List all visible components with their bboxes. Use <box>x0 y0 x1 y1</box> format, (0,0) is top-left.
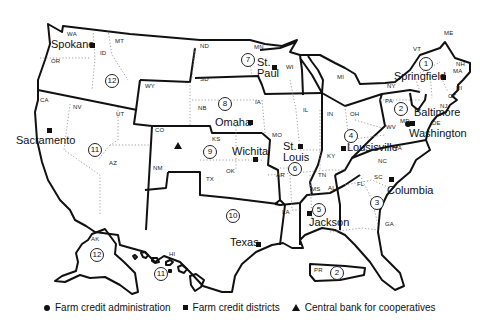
state-or: OR <box>51 58 60 64</box>
district-3-label: 3 <box>370 196 384 210</box>
legend-item-fca: Farm credit administration <box>44 302 171 313</box>
state-nm: NM <box>153 165 163 171</box>
district-12-label: 12 <box>105 74 119 88</box>
triangle-icon <box>292 304 300 311</box>
state-oh: OH <box>350 111 359 117</box>
state-pr: PR <box>314 267 323 273</box>
legend-label: Central bank for cooperatives <box>305 302 436 313</box>
district-10-label: 10 <box>226 209 240 223</box>
state-ms: MS <box>311 186 320 192</box>
legend-label: Farm credit districts <box>193 302 280 313</box>
state-wv: WV <box>386 124 396 130</box>
state-ia: IA <box>255 99 261 105</box>
district-11-hawaii-label: 11 <box>154 267 168 281</box>
district-2-puerto-rico-label: 2 <box>330 266 344 280</box>
district-hq-marker <box>441 75 446 80</box>
state-hi: HI <box>169 251 175 257</box>
state-mt: MT <box>115 38 124 44</box>
district-hq-marker <box>341 146 346 151</box>
state-tn: TN <box>318 172 326 178</box>
city-columbia: Columbia <box>387 185 433 196</box>
city-wichita: Wichita <box>232 146 268 157</box>
state-sd: SD <box>200 76 209 82</box>
district-hq-marker <box>298 144 303 149</box>
district-hq-marker <box>248 120 253 125</box>
state-sc: SC <box>374 174 383 180</box>
state-id: ID <box>100 50 106 56</box>
district-7-label: 7 <box>241 53 255 67</box>
state-mn: MN <box>254 44 264 50</box>
state-de: DE <box>432 120 441 126</box>
state-il: IL <box>303 107 308 113</box>
state-vt: VT <box>413 46 421 52</box>
city-omaha: Omaha <box>215 117 251 128</box>
state-az: AZ <box>109 160 117 166</box>
city-spokane: Spokane <box>51 39 94 50</box>
district-1-label: 1 <box>419 57 433 71</box>
district-hq-marker <box>389 177 394 182</box>
state-nd: ND <box>200 43 209 49</box>
district-5-label: 5 <box>312 203 326 217</box>
city-sacramento: Sacramento <box>16 135 75 146</box>
state-ut: UT <box>116 111 124 117</box>
state-nc: NC <box>378 158 387 164</box>
state-nh: NH <box>456 61 465 67</box>
state-ga: FL <box>357 181 364 187</box>
city-baltimore: Baltimore <box>414 107 460 118</box>
legend-item-districts: Farm credit districts <box>183 302 280 313</box>
state-ca: CA <box>40 97 49 103</box>
district-12-alaska-label: 12 <box>90 248 104 262</box>
district-hq-marker <box>253 157 258 162</box>
city-texas: Texas <box>230 237 259 248</box>
state-mi: MI <box>337 74 344 80</box>
state-nb: NB <box>198 105 207 111</box>
state-in: IN <box>327 111 333 117</box>
district-hq-marker <box>47 128 52 133</box>
city-st-paul-line2: Paul <box>257 68 279 79</box>
legend-label: Farm credit administration <box>55 302 171 313</box>
state-ak: AK <box>91 236 99 242</box>
district-6-label: 6 <box>288 162 302 176</box>
district-hq-marker <box>256 242 261 247</box>
state-la: LA <box>282 209 290 215</box>
state-fl: GA <box>385 221 394 227</box>
district-8-label: 8 <box>218 97 232 111</box>
circle-icon <box>44 305 50 311</box>
district-11-label: 11 <box>88 143 102 157</box>
state-wa: WA <box>67 31 77 37</box>
state-ar: AR <box>276 172 285 178</box>
legend-item-central-bank: Central bank for cooperatives <box>292 302 436 313</box>
city-jackson: Jackson <box>309 217 349 228</box>
state-ok: OK <box>226 168 235 174</box>
district-9-label: 9 <box>203 145 217 159</box>
state-wi: WI <box>286 64 294 70</box>
city-louisville: Lousisville <box>347 142 398 153</box>
map-legend: Farm credit administration Farm credit d… <box>44 302 435 313</box>
state-ks: KS <box>212 136 220 142</box>
state-co: CO <box>155 127 164 133</box>
city-washington: Washington <box>409 128 467 139</box>
square-icon <box>183 305 188 310</box>
state-wy: WY <box>145 83 155 89</box>
state-pa: PA <box>385 98 393 104</box>
state-ma: MA <box>453 68 462 74</box>
state-mo: MO <box>272 132 282 138</box>
central-bank-marker <box>174 142 182 149</box>
city-st-louis-line2: Louis <box>283 152 309 163</box>
state-ct: CT <box>448 93 456 99</box>
state-ky: KY <box>327 153 335 159</box>
district-hq-marker <box>90 43 95 48</box>
state-al: AL <box>328 185 336 191</box>
state-ri: RI <box>456 85 462 91</box>
state-tx: TX <box>206 176 214 182</box>
district-2-label: 2 <box>394 102 408 116</box>
state-nv: NV <box>73 104 82 110</box>
state-me: ME <box>444 30 453 36</box>
state-ny: NY <box>387 83 396 89</box>
city-springfield: Springfield <box>394 71 446 82</box>
